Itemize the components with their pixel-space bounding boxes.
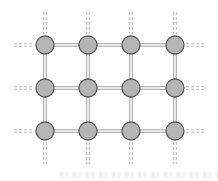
lattice-node (79, 79, 97, 97)
lattice-nodes (36, 36, 184, 140)
lattice-node (79, 122, 97, 140)
lattice-node (122, 79, 140, 97)
bleed-through-text (60, 172, 218, 178)
lattice-diagram (0, 0, 218, 181)
lattice-node (36, 122, 54, 140)
lattice-node (36, 79, 54, 97)
lattice-node (166, 36, 184, 54)
lattice-node (166, 79, 184, 97)
lattice-node (36, 36, 54, 54)
lattice-node (166, 122, 184, 140)
lattice-node (122, 36, 140, 54)
lattice-node (79, 36, 97, 54)
lattice-node (122, 122, 140, 140)
lattice-edges (44, 44, 177, 133)
